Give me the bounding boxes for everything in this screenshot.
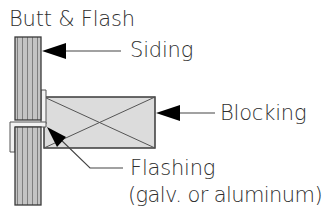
blocking-leader-arrow xyxy=(156,105,215,121)
lower-siding-board xyxy=(15,127,41,205)
flashing-material-note: (galv. or aluminum) xyxy=(128,185,322,206)
siding-leader-arrow xyxy=(42,43,121,59)
diagram-title: Butt & Flash xyxy=(9,9,135,30)
flashing-label: Flashing xyxy=(130,158,215,179)
siding-label: Siding xyxy=(130,40,193,61)
upper-siding-board xyxy=(15,37,41,120)
blocking-label: Blocking xyxy=(220,103,306,124)
butt-and-flash-diagram: Butt & Flash Siding Blocking Flashing (g… xyxy=(0,0,336,223)
